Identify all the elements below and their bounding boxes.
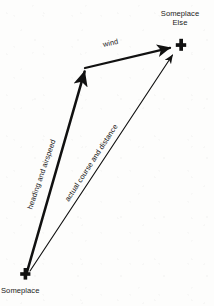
node-label-someplace-else: Someplace Else xyxy=(149,9,211,27)
node-label-someplace: Someplace xyxy=(1,286,57,295)
heading-airspeed-arrow xyxy=(27,72,85,273)
edge-actual-course-distance xyxy=(30,55,173,271)
wind-triangle-diagram: Someplace Else Someplace wind heading an… xyxy=(0,0,214,306)
edge-heading-airspeed xyxy=(27,72,85,273)
wind-arrow xyxy=(85,48,170,68)
cross-marker-someplace-else xyxy=(176,39,186,51)
edge-wind xyxy=(85,48,170,68)
actual-course-arrow xyxy=(30,55,173,271)
